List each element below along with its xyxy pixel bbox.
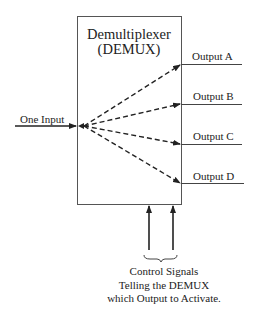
control-caption: Control Signals Telling the DEMUX which … (96, 265, 232, 306)
output-c-label: Output C (193, 130, 234, 142)
output-a-label: Output A (192, 50, 233, 62)
input-label: One Input (20, 113, 64, 125)
output-d-label: Output D (193, 170, 234, 182)
input-node-icon (78, 123, 84, 129)
output-b-label: Output B (193, 90, 234, 102)
title-line-2: (DEMUX) (77, 42, 181, 57)
title-line-1: Demultiplexer (77, 27, 181, 42)
caption-line-2: Telling the DEMUX (96, 279, 232, 293)
caption-line-1: Control Signals (96, 265, 232, 279)
path-to-output-a (84, 65, 180, 126)
caption-line-3: which Output to Activate. (96, 292, 232, 306)
control-brace (144, 255, 177, 262)
diagram-title: Demultiplexer (DEMUX) (77, 27, 181, 57)
path-to-output-b (84, 104, 180, 126)
